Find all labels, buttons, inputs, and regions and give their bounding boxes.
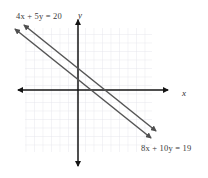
equation-label-line1: 4x + 5y = 20 <box>16 11 62 21</box>
x-axis-label: x <box>182 88 186 98</box>
y-axis-label: y <box>78 10 82 20</box>
equation-label-line2: 8x + 10y = 19 <box>141 143 191 153</box>
math-figure: 4x + 5y = 20 8x + 10y = 19 y x <box>0 0 208 178</box>
